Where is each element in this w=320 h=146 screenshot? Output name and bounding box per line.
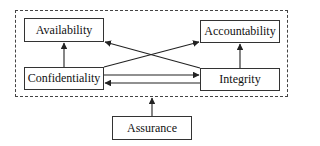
node-accountability: Accountability (200, 20, 280, 43)
node-confidentiality: Confidentiality (24, 67, 104, 90)
node-integrity: Integrity (200, 68, 280, 91)
node-availability: Availability (24, 18, 104, 42)
node-assurance: Assurance (112, 116, 192, 140)
